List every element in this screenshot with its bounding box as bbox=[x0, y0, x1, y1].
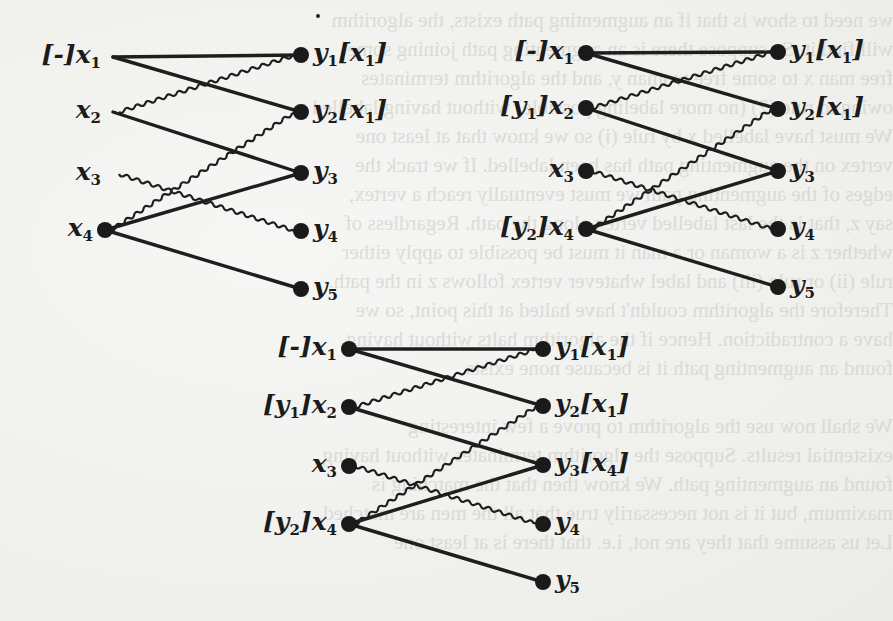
graph-2 bbox=[578, 44, 786, 295]
solid-edge-x2-y3 bbox=[113, 112, 301, 173]
vertex-label-graph-3-y5: y5 bbox=[555, 567, 580, 596]
vertex-label-graph-1-y5: y5 bbox=[313, 274, 338, 303]
vertex-dot-y3 bbox=[293, 165, 309, 181]
graph-1 bbox=[97, 47, 309, 297]
vertex-dot-y4 bbox=[293, 223, 309, 239]
vertex-label-graph-1-y2: y2[x1] bbox=[313, 97, 387, 126]
vertex-dot-x4 bbox=[578, 221, 594, 237]
vertex-label-graph-2-y3: y3 bbox=[790, 156, 815, 185]
matching-diagrams bbox=[0, 0, 893, 621]
vertex-label-graph-2-x3: x3 bbox=[549, 156, 574, 185]
vertex-dot-y1 bbox=[535, 341, 551, 357]
vertex-label-graph-3-x1: [-]x1 bbox=[278, 334, 337, 363]
vertex-dot-x2 bbox=[341, 399, 357, 415]
vertex-label-graph-2-y1: y1[x1] bbox=[790, 37, 864, 66]
vertex-dot-y5 bbox=[770, 279, 786, 295]
solid-edge-x2-y3 bbox=[349, 407, 543, 465]
solid-edge-x4-y5 bbox=[105, 230, 301, 289]
vertex-label-graph-3-y4: y4 bbox=[555, 509, 580, 538]
vertex-label-graph-2-x1: [-]x1 bbox=[515, 38, 574, 67]
vertex-dot-y2 bbox=[535, 398, 551, 414]
solid-edge-x2-y3 bbox=[586, 108, 778, 171]
vertex-dot-x3 bbox=[578, 163, 594, 179]
solid-edge-x4-y5 bbox=[586, 229, 778, 287]
vertex-label-graph-1-y4: y4 bbox=[313, 216, 338, 245]
vertex-dot-y2 bbox=[293, 104, 309, 120]
vertex-label-graph-1-y3: y3 bbox=[313, 158, 338, 187]
vertex-label-graph-2-y2: y2[x1] bbox=[790, 94, 864, 123]
vertex-dot-x4 bbox=[97, 222, 113, 238]
vertex-dot-y1 bbox=[293, 47, 309, 63]
vertex-label-graph-2-x2: [y1]x2 bbox=[500, 93, 574, 122]
vertex-dot-x1 bbox=[341, 341, 357, 357]
vertex-label-graph-2-y5: y5 bbox=[790, 272, 815, 301]
vertex-dot-y5 bbox=[535, 574, 551, 590]
solid-edge-x1-y1 bbox=[113, 55, 301, 57]
vertex-dot-y3 bbox=[770, 163, 786, 179]
solid-edge-x4-y5 bbox=[349, 524, 543, 582]
vertex-dot-y3 bbox=[535, 457, 551, 473]
vertex-dot-y5 bbox=[293, 281, 309, 297]
vertex-label-graph-1-y1: y1[x1] bbox=[313, 40, 387, 69]
vertex-label-graph-3-y1: y1[x1] bbox=[555, 334, 629, 363]
wavy-edge-x4-y2 bbox=[111, 112, 295, 230]
vertex-dot-y4 bbox=[770, 221, 786, 237]
vertex-dot-x3 bbox=[341, 458, 357, 474]
vertex-dot-y2 bbox=[770, 101, 786, 117]
vertex-label-graph-3-y2: y2[x1] bbox=[555, 391, 629, 420]
vertex-label-graph-1-x3: x3 bbox=[76, 159, 101, 188]
vertex-label-graph-2-x4: [y2]x4 bbox=[500, 214, 574, 243]
graph-3 bbox=[341, 341, 551, 590]
vertex-label-graph-1-x1: [-]x1 bbox=[42, 42, 101, 71]
vertex-label-graph-3-x2: [y1]x2 bbox=[263, 392, 337, 421]
vertex-dot-x2 bbox=[578, 100, 594, 116]
wavy-edge-x4-y2 bbox=[592, 109, 772, 229]
vertex-label-graph-1-x4: x4 bbox=[68, 215, 93, 244]
vertex-label-graph-3-x3: x3 bbox=[312, 451, 337, 480]
vertex-label-graph-2-y4: y4 bbox=[790, 214, 815, 243]
vertex-dot-x1 bbox=[578, 45, 594, 61]
vertex-label-graph-1-x2: x2 bbox=[76, 97, 101, 126]
solid-edge-x1-y1 bbox=[586, 52, 778, 53]
vertex-label-graph-3-x4: [y2]x4 bbox=[263, 509, 337, 538]
vertex-dot-x4 bbox=[341, 516, 357, 532]
vertex-dot-y4 bbox=[535, 516, 551, 532]
vertex-dot-y1 bbox=[770, 44, 786, 60]
wavy-edge-x4-y2 bbox=[355, 406, 537, 524]
vertex-label-graph-3-y3: y3[x4] bbox=[555, 450, 629, 479]
